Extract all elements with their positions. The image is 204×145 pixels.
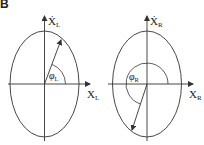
right-state-vector-arrow bbox=[132, 84, 147, 130]
right-phase-plane: ẊR XR φR bbox=[108, 15, 202, 141]
right-y-axis-label: ẊR bbox=[150, 15, 163, 29]
phase-plane-figure: ẊL XL φL ẊR XR φR bbox=[0, 0, 204, 145]
left-angle-label: φL bbox=[49, 70, 59, 82]
right-x-axis-label: XR bbox=[189, 88, 202, 102]
right-angle-label: φR bbox=[129, 71, 140, 83]
left-x-axis-label: XL bbox=[87, 88, 99, 102]
left-y-axis-label: ẊL bbox=[48, 15, 60, 29]
left-phase-plane: ẊL XL φL bbox=[8, 15, 99, 141]
